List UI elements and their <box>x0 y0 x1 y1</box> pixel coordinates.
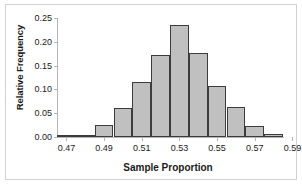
y-axis-tick-label: 0.15 <box>34 61 52 71</box>
x-axis-line <box>57 137 284 138</box>
y-axis-tick-mark <box>54 113 57 114</box>
x-axis-tick-label: 0.47 <box>58 143 76 153</box>
histogram-bar <box>227 107 246 137</box>
histogram-bar <box>264 134 283 137</box>
histogram-bar <box>76 135 95 137</box>
y-axis-tick-mark <box>54 18 57 19</box>
x-axis-tick-mark <box>142 137 143 141</box>
x-axis-tick-label: 0.53 <box>171 143 189 153</box>
x-axis-tick-mark <box>217 137 218 141</box>
y-axis-tick-mark <box>54 42 57 43</box>
histogram-bar <box>208 86 227 137</box>
y-axis-tick-label: 0.00 <box>34 132 52 142</box>
y-axis-tick-mark <box>54 89 57 90</box>
histogram-bar <box>114 108 133 138</box>
x-axis-tick-label: 0.55 <box>208 143 226 153</box>
x-axis-tick-label: 0.57 <box>246 143 264 153</box>
x-axis-tick-label: 0.59 <box>284 143 302 153</box>
y-axis-tick-mark <box>54 137 57 138</box>
x-axis-title: Sample Proportion <box>52 162 284 173</box>
histogram-bar <box>170 25 189 137</box>
histogram-bar <box>245 126 264 137</box>
y-axis-tick-mark <box>54 66 57 67</box>
y-axis-tick-label: 0.05 <box>34 108 52 118</box>
histogram-bar <box>132 82 151 137</box>
y-axis-tick-label: 0.20 <box>34 37 52 47</box>
histogram-bar <box>95 125 114 137</box>
histogram-bar <box>189 53 208 137</box>
x-axis-tick-label: 0.51 <box>133 143 151 153</box>
x-axis-tick-label: 0.49 <box>95 143 113 153</box>
x-axis-tick-mark <box>104 137 105 141</box>
x-axis-tick-mark <box>66 137 67 141</box>
y-axis-title: Relative Frequency <box>14 8 25 128</box>
y-axis-tick-label: 0.25 <box>34 13 52 23</box>
histogram-figure: Relative Frequency Sample Proportion 0.0… <box>0 0 302 189</box>
bars-layer <box>57 18 283 137</box>
x-axis-tick-mark <box>179 137 180 141</box>
y-axis-tick-label: 0.10 <box>34 84 52 94</box>
x-axis-tick-mark <box>292 137 293 141</box>
x-axis-tick-mark <box>255 137 256 141</box>
histogram-bar <box>151 55 170 137</box>
